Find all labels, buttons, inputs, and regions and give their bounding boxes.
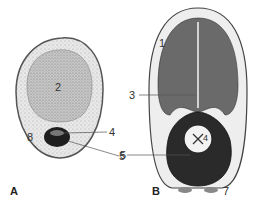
label-b-1: 1 — [159, 38, 165, 49]
label-b-5: 5 — [120, 150, 126, 161]
panel-label-a: A — [10, 186, 18, 197]
label-a-8: 8 — [27, 132, 33, 143]
label-b-3: 3 — [129, 90, 135, 101]
panel-label-b: B — [152, 186, 160, 197]
seed-b-section — [127, 8, 247, 193]
label-b-4: 4 — [203, 134, 208, 143]
label-a-2: 2 — [55, 82, 61, 93]
diagram-canvas — [0, 0, 253, 205]
label-b-7: 7 — [223, 186, 229, 197]
label-a-4: 4 — [109, 127, 115, 138]
